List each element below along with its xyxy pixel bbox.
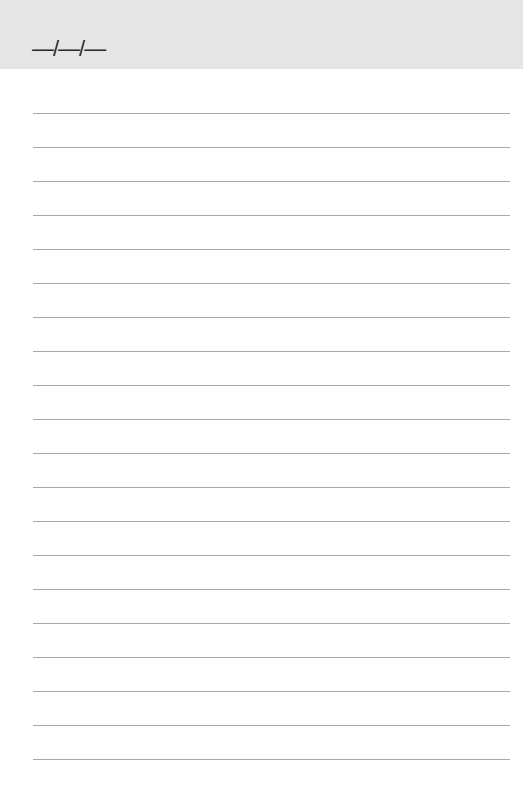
page-header: —/—/—: [0, 0, 523, 69]
ruled-line: [33, 725, 510, 726]
ruled-line: [33, 623, 510, 624]
ruled-line: [33, 385, 510, 386]
ruled-line: [33, 453, 510, 454]
ruled-line: [33, 487, 510, 488]
ruled-line: [33, 283, 510, 284]
ruled-line: [33, 147, 510, 148]
lined-page[interactable]: [0, 69, 523, 797]
ruled-line: [33, 317, 510, 318]
ruled-line: [33, 691, 510, 692]
ruled-line: [33, 249, 510, 250]
ruled-line: [33, 215, 510, 216]
ruled-line: [33, 555, 510, 556]
ruled-line: [33, 113, 510, 114]
ruled-line: [33, 521, 510, 522]
ruled-line: [33, 759, 510, 760]
ruled-line: [33, 657, 510, 658]
date-field[interactable]: —/—/—: [32, 38, 105, 60]
ruled-line: [33, 589, 510, 590]
ruled-line: [33, 351, 510, 352]
ruled-line: [33, 181, 510, 182]
ruled-line: [33, 419, 510, 420]
